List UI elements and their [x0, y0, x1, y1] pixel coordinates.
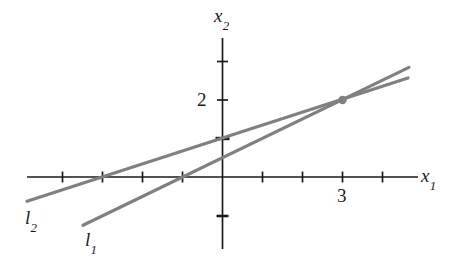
line-l1-label-base: l: [85, 229, 90, 250]
line-l2-label: l2: [25, 208, 37, 232]
x-axis-label-base: x: [421, 165, 429, 186]
linear-equations-graph-figure: x2 x1 l1 l2 2 3: [0, 0, 461, 263]
axes-group: [27, 38, 418, 249]
y-tick-label-2: 2: [197, 90, 207, 109]
intersection-point-marker: [338, 96, 346, 104]
x-axis-label-subscript: 1: [430, 178, 436, 193]
line-l1-label-subscript: 1: [91, 242, 97, 257]
y-axis-label-base: x: [214, 5, 222, 26]
line-l1-label: l1: [85, 230, 97, 254]
x-axis-label: x1: [421, 166, 436, 190]
y-axis-label: x2: [214, 6, 229, 30]
x-tick-label-3: 3: [337, 186, 347, 205]
line-l1: [83, 67, 409, 225]
coordinate-plot-svg: [0, 0, 461, 263]
line-l2-label-subscript: 2: [31, 220, 37, 235]
line-l2-label-base: l: [25, 207, 30, 228]
y-axis-label-subscript: 2: [223, 18, 229, 33]
